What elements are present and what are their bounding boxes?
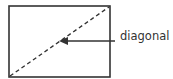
diagonal-label: diagonal <box>120 31 169 43</box>
